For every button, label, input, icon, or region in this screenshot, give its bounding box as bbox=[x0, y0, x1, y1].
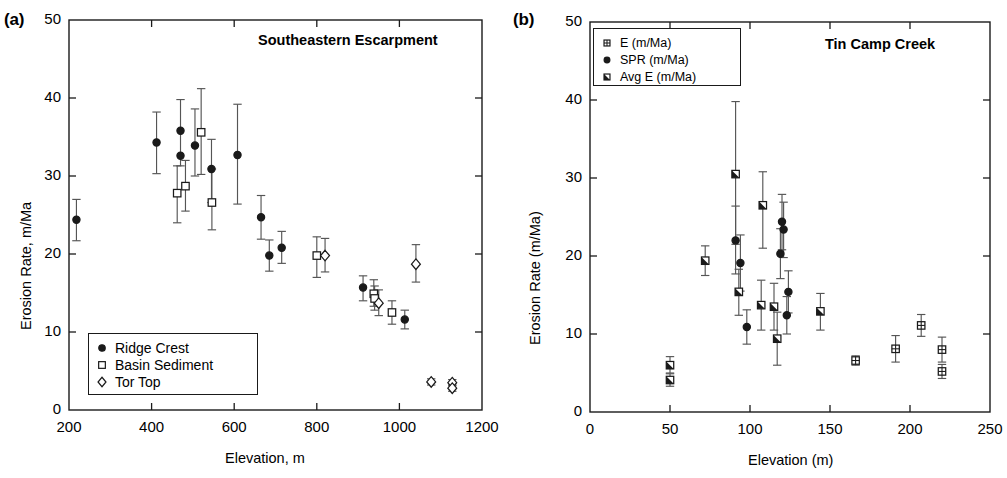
data-point bbox=[208, 165, 215, 172]
data-point bbox=[208, 199, 215, 206]
data-point bbox=[401, 316, 408, 323]
data-point bbox=[757, 301, 764, 308]
filled-circle-icon bbox=[777, 250, 784, 257]
marker-half-filled-square bbox=[604, 74, 610, 80]
filled-circle-icon bbox=[780, 226, 787, 233]
x-tick-label: 400 bbox=[122, 418, 182, 435]
data-point bbox=[852, 357, 859, 364]
open-square-icon bbox=[197, 129, 204, 136]
legend-marker-open-square bbox=[89, 357, 115, 373]
filled-circle-icon bbox=[177, 152, 184, 159]
data-point bbox=[732, 170, 739, 177]
error-bar bbox=[759, 172, 767, 248]
filled-circle-icon bbox=[177, 127, 184, 134]
filled-circle-icon bbox=[153, 139, 160, 146]
y-tick-label: 50 bbox=[19, 10, 61, 27]
legend-marker-crossed-square bbox=[594, 35, 620, 51]
data-point bbox=[743, 323, 750, 330]
marker-open-square bbox=[99, 362, 106, 369]
y-tick-label: 20 bbox=[540, 246, 582, 263]
marker-filled-circle bbox=[604, 57, 610, 63]
data-point bbox=[313, 252, 320, 259]
data-point bbox=[257, 214, 264, 221]
filled-circle-icon bbox=[191, 142, 198, 149]
legend-label: Ridge Crest bbox=[115, 340, 189, 356]
x-tick-label: 0 bbox=[560, 420, 620, 437]
open-square-icon bbox=[182, 182, 189, 189]
data-point bbox=[73, 216, 80, 223]
filled-circle-icon bbox=[73, 216, 80, 223]
data-point bbox=[388, 309, 395, 316]
data-point bbox=[770, 303, 777, 310]
legend-label: Tor Top bbox=[115, 374, 161, 390]
filled-circle-icon bbox=[99, 345, 105, 351]
filled-circle-icon bbox=[785, 288, 792, 295]
x-tick-label: 150 bbox=[800, 420, 860, 437]
y-tick-label: 40 bbox=[19, 88, 61, 105]
data-point bbox=[777, 250, 784, 257]
data-point bbox=[938, 346, 945, 353]
y-tick-label: 50 bbox=[540, 12, 582, 29]
open-square-icon bbox=[388, 309, 395, 316]
filled-circle-icon bbox=[778, 218, 785, 225]
open-square-icon bbox=[173, 189, 180, 196]
panel-a-plot-area bbox=[0, 0, 504, 478]
filled-circle-icon bbox=[743, 323, 750, 330]
x-tick-label: 800 bbox=[287, 418, 347, 435]
data-point bbox=[780, 226, 787, 233]
x-tick-label: 250 bbox=[960, 420, 1007, 437]
legend-label: Avg E (m/Ma) bbox=[620, 70, 696, 84]
data-point bbox=[411, 259, 420, 270]
filled-circle-icon bbox=[208, 165, 215, 172]
filled-circle-icon bbox=[257, 214, 264, 221]
legend-item: Ridge Crest bbox=[89, 340, 257, 356]
y-tick-label: 10 bbox=[540, 324, 582, 341]
y-tick-label: 20 bbox=[19, 244, 61, 261]
legend-item: E (m/Ma) bbox=[594, 35, 740, 51]
data-point bbox=[773, 335, 780, 342]
data-point bbox=[785, 288, 792, 295]
x-tick-label: 1000 bbox=[369, 418, 429, 435]
panel-b: (b) Tin Camp Creek Elevation (m) Erosion… bbox=[503, 0, 1007, 478]
data-point bbox=[737, 259, 744, 266]
data-point bbox=[177, 127, 184, 134]
data-point bbox=[173, 189, 180, 196]
x-tick-label: 200 bbox=[880, 420, 940, 437]
legend-item: SPR (m/Ma) bbox=[594, 52, 740, 68]
filled-circle-icon bbox=[278, 244, 285, 251]
open-square-icon bbox=[313, 252, 320, 259]
legend-marker-filled-circle bbox=[89, 340, 115, 356]
legend-label: Basin Sediment bbox=[115, 357, 213, 373]
y-tick-label: 40 bbox=[540, 90, 582, 107]
x-tick-label: 50 bbox=[640, 420, 700, 437]
data-point bbox=[701, 257, 708, 264]
data-point bbox=[817, 308, 824, 315]
panel-a-legend: Ridge CrestBasin SedimentTor Top bbox=[88, 333, 258, 395]
marker-open-diamond bbox=[98, 377, 106, 387]
filled-circle-icon bbox=[732, 237, 739, 244]
marker-crossed-square bbox=[604, 40, 610, 46]
legend-label: E (m/Ma) bbox=[620, 36, 671, 50]
data-point bbox=[427, 377, 436, 388]
open-diamond-icon bbox=[321, 250, 330, 261]
data-point bbox=[278, 244, 285, 251]
legend-item: Avg E (m/Ma) bbox=[594, 69, 740, 85]
data-point bbox=[759, 202, 766, 209]
data-point bbox=[182, 182, 189, 189]
data-point bbox=[735, 288, 742, 295]
filled-circle-icon bbox=[737, 259, 744, 266]
panel-b-legend: E (m/Ma)SPR (m/Ma)Avg E (m/Ma) bbox=[593, 28, 741, 86]
x-tick-label: 600 bbox=[204, 418, 264, 435]
legend-item: Basin Sediment bbox=[89, 357, 257, 373]
x-tick-label: 100 bbox=[720, 420, 780, 437]
legend-item: Tor Top bbox=[89, 374, 257, 390]
legend-label: SPR (m/Ma) bbox=[620, 53, 689, 67]
y-tick-label: 0 bbox=[19, 400, 61, 417]
legend-marker-half-filled-square bbox=[594, 69, 620, 85]
filled-circle-icon bbox=[266, 252, 273, 259]
data-point bbox=[892, 345, 899, 352]
y-tick-label: 30 bbox=[540, 168, 582, 185]
legend-marker-open-diamond bbox=[89, 374, 115, 390]
data-point bbox=[666, 361, 673, 368]
data-point bbox=[266, 252, 273, 259]
